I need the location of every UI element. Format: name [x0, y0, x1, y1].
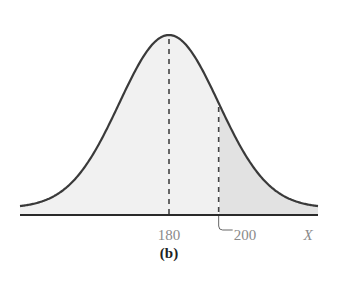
x-axis-label: X	[302, 227, 313, 243]
tick-label-200: 200	[234, 227, 257, 243]
shaded-region-below-200	[20, 35, 218, 215]
panel-label: (b)	[160, 245, 178, 262]
shaded-region-above-200	[219, 104, 318, 215]
tick-label-180: 180	[158, 227, 181, 243]
normal-curve-chart: 180 200 X (b)	[0, 0, 347, 287]
leader-line-200	[219, 216, 233, 230]
